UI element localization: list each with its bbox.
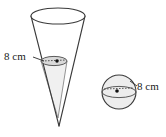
cone-measure-label: 8 cm [4,50,26,62]
cone-center-dot [55,59,58,62]
sphere-outline [102,75,136,109]
sphere-measure-label: 8 cm [137,80,159,92]
cone-shape: 8 cm [4,8,85,126]
sphere-shape: 8 cm [102,75,159,109]
geometry-figure: 8 cm 8 cm [0,0,166,137]
cone-inner-ellipse [41,56,67,65]
figure-canvas: 8 cm 8 cm [0,0,166,137]
sphere-center-dot [115,89,119,93]
cone-top-ellipse [31,8,85,24]
